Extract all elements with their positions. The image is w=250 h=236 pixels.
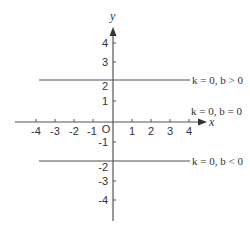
y-axis-label: y: [109, 9, 116, 23]
annotation-b-zero: k = 0, b = 0: [191, 105, 242, 117]
y-tick-label: -1: [98, 136, 108, 148]
x-tick-label: -3: [50, 125, 60, 137]
x-axis-label: x: [208, 115, 215, 129]
y-tick-label: -2: [98, 161, 108, 173]
y-tick-label: -3: [98, 175, 108, 187]
origin-label: O: [102, 123, 111, 135]
y-axis-arrow-icon: [110, 27, 117, 36]
y-tick-label: -4: [98, 194, 108, 206]
y-tick-label: 1: [102, 95, 108, 107]
x-tick-label: -2: [69, 125, 79, 137]
coordinate-plane: -4 -3 -2 -1 1 2 3 4 O 4 3 2 1 -1 -2 -3 -…: [0, 0, 250, 236]
x-tick-label: 2: [148, 125, 154, 137]
x-tick-label: -1: [87, 125, 97, 137]
y-tick-label: 3: [102, 56, 108, 68]
annotation-b-positive: k = 0, b > 0: [192, 74, 243, 86]
y-tick-label: 4: [102, 37, 108, 49]
x-tick-label: 4: [186, 125, 192, 137]
x-tick-label: -4: [31, 125, 41, 137]
annotation-b-negative: k = 0, b < 0: [192, 155, 243, 167]
x-tick-label: 1: [129, 125, 135, 137]
x-axis-arrow-icon: [198, 119, 207, 126]
x-tick-label: 3: [167, 125, 173, 137]
y-tick-label: 2: [102, 80, 108, 92]
